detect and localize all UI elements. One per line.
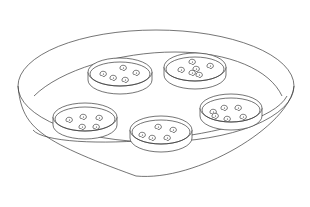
seed-icon [110, 75, 116, 80]
seed-icon [149, 135, 155, 140]
dish-bottom-left [53, 103, 117, 139]
seed-icon [80, 114, 86, 119]
seed-icon [120, 65, 126, 70]
tray-inner-back [34, 52, 282, 96]
seed-icon [170, 127, 176, 132]
seed-icon [79, 124, 85, 129]
dish-top-left [88, 58, 152, 94]
petri-dishes [53, 53, 262, 152]
seed-icon [207, 63, 213, 68]
seed-icon [221, 105, 227, 110]
seed-icon [100, 71, 106, 76]
dish-top-right [164, 53, 226, 89]
dish-bottom-right [200, 94, 262, 130]
seed-icon [155, 124, 161, 129]
seed-icon [96, 115, 102, 120]
seed-icon [122, 77, 128, 82]
seed-icon [139, 132, 145, 137]
tray-with-petri-dishes-illustration [0, 0, 310, 207]
seed-icon [196, 72, 202, 77]
seed-icon [93, 124, 99, 129]
seed-icon [235, 105, 241, 110]
dish-bottom-center [130, 116, 192, 152]
seed-icon [189, 59, 195, 64]
seed-icon [224, 116, 230, 121]
seed-icon [240, 114, 246, 119]
seed-icon [189, 70, 195, 75]
seed-icon [133, 70, 139, 75]
seed-icon [164, 135, 170, 140]
seed-icon [178, 67, 184, 72]
seed-icon [66, 117, 72, 122]
seed-icon [212, 113, 218, 118]
